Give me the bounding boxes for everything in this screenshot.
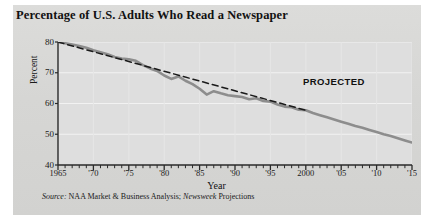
trend-line xyxy=(58,42,306,110)
x-axis-tick-label: '75 xyxy=(124,168,134,178)
source-publication: Newsweek xyxy=(183,192,216,201)
y-axis-tick-label: 80 xyxy=(32,38,54,47)
x-axis-tick-label: '95 xyxy=(265,168,275,178)
source-body: NAA Market & Business Analysis; xyxy=(67,192,183,201)
x-axis-tick-label: '05 xyxy=(336,168,346,178)
x-axis-title: Year xyxy=(0,180,433,191)
x-axis-tick-label: 1965 xyxy=(50,168,67,178)
x-axis-tick-label: '90 xyxy=(230,168,240,178)
figure-root: Percentage of U.S. Adults Who Read a New… xyxy=(0,0,433,222)
x-axis-tick-label: '70 xyxy=(88,168,98,178)
x-axis-tick-label: '85 xyxy=(195,168,205,178)
source-prefix: Source: xyxy=(42,192,67,201)
page-title: Percentage of U.S. Adults Who Read a New… xyxy=(16,8,288,23)
gridlines xyxy=(58,42,412,165)
x-axis-tick-label: 2000 xyxy=(297,168,314,178)
y-axis-tick-label: 50 xyxy=(32,130,54,139)
source-note: Source: NAA Market & Business Analysis; … xyxy=(42,192,254,201)
y-axis-tick-label: 70 xyxy=(32,68,54,77)
x-axis-tick-label: '80 xyxy=(159,168,169,178)
x-axis-tick-label: '10 xyxy=(372,168,382,178)
plot-area xyxy=(58,42,412,165)
y-axis-tick-label: 60 xyxy=(32,99,54,108)
projected-annotation: PROJECTED xyxy=(303,76,365,87)
plot-svg xyxy=(58,42,412,165)
source-suffix: Projections xyxy=(216,192,254,201)
x-axis-tick-label: '15 xyxy=(407,168,417,178)
